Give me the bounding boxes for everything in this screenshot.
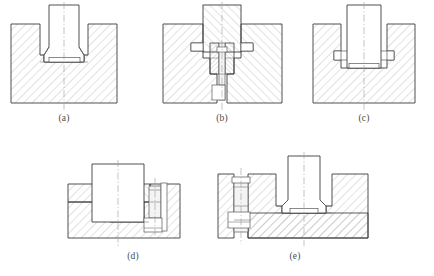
- key-tab-right-c: [387, 51, 394, 60]
- caption-b: (b): [202, 113, 242, 123]
- base-block-e: [248, 213, 368, 238]
- panel-a: [5, 2, 135, 114]
- panel-b: [155, 2, 290, 114]
- seat-plate-a: [49, 58, 80, 63]
- panel-d: [58, 150, 213, 250]
- key-tab-left-c: [334, 51, 341, 60]
- flange-tab-left-b: [191, 43, 203, 51]
- caption-c: (c): [344, 113, 384, 123]
- housing-strip-left-e: [218, 174, 234, 238]
- panel-e: [210, 150, 380, 250]
- drawing-sheet: (a) (b): [0, 0, 434, 276]
- caption-e: (e): [275, 251, 315, 261]
- nut-block-d: [144, 218, 162, 232]
- caption-d: (d): [113, 251, 153, 261]
- panel-c: [305, 2, 431, 114]
- caption-a: (a): [44, 113, 84, 123]
- flange-tab-right-b: [241, 43, 253, 51]
- nut-block-b: [212, 85, 225, 100]
